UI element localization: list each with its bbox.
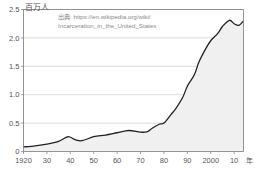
series-area-fill	[24, 20, 244, 151]
x-axis-tick-label: 50	[90, 156, 98, 165]
x-axis-tick-label: 10	[230, 156, 238, 165]
source-annotation-line-1: 出典: https://en.wikipedia.org/wiki/	[58, 13, 156, 22]
x-axis-labels: 192030405060708090200010	[15, 156, 238, 165]
y-axis-tick-label: 1.0	[9, 90, 19, 99]
source-prefix: 出典:	[58, 13, 72, 20]
y-axis-tick-label: 2.5	[9, 5, 19, 14]
x-axis-tick-label: 70	[136, 156, 144, 165]
x-axis-tick-label: 1920	[15, 156, 32, 165]
source-url-line-2: Incarceration_in_the_United_States	[58, 22, 156, 31]
source-annotation: 出典: https://en.wikipedia.org/wiki/ Incar…	[58, 13, 156, 30]
incarceration-area-chart: 百万人 出典: https://en.wikipedia.org/wiki/ I…	[0, 0, 255, 174]
y-axis-unit-label: 百万人	[25, 1, 49, 12]
x-axis-tick-label: 2000	[202, 156, 219, 165]
source-url-line-1: https://en.wikipedia.org/wiki/	[73, 13, 150, 20]
x-axis-unit-label: 年	[246, 156, 253, 165]
x-axis-tick-label: 80	[160, 156, 168, 165]
x-axis-tick-label: 40	[66, 156, 74, 165]
y-axis-tick-label: 1.5	[9, 62, 19, 71]
y-axis-tick-label: 2.0	[9, 34, 19, 43]
x-axis-tick-label: 30	[43, 156, 51, 165]
y-axis-tick-label: 0.5	[9, 119, 19, 128]
y-axis-labels: 00.51.01.52.02.5	[9, 5, 19, 156]
x-axis-tick-label: 90	[183, 156, 191, 165]
x-axis-tick-label: 60	[113, 156, 121, 165]
